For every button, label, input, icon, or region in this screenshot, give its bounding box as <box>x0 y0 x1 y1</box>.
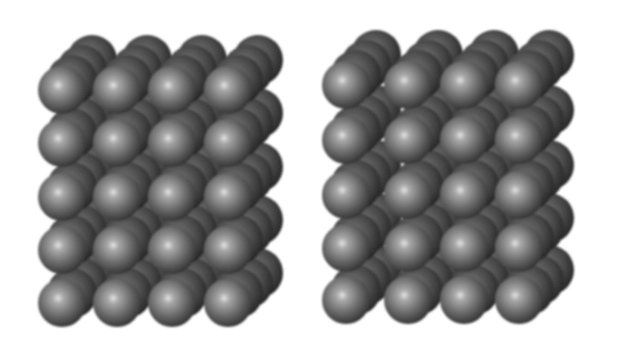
front-atom-sphere <box>204 66 252 114</box>
front-atom-sphere <box>204 279 252 327</box>
front-atom-sphere <box>148 66 196 114</box>
front-atom-sphere <box>93 66 141 114</box>
front-atom-sphere <box>440 116 488 164</box>
front-atom-sphere <box>495 61 543 109</box>
front-atom-sphere <box>384 61 432 109</box>
front-atom-sphere <box>440 171 488 219</box>
front-atom-sphere <box>148 226 196 274</box>
front-atom-sphere <box>384 276 432 324</box>
front-atom-sphere <box>204 119 252 167</box>
front-atom-sphere <box>495 116 543 164</box>
front-atom-sphere <box>384 224 432 272</box>
front-atom-sphere <box>38 173 86 221</box>
front-atom-sphere <box>495 171 543 219</box>
front-atom-sphere <box>440 224 488 272</box>
front-atom-sphere <box>38 279 86 327</box>
front-atom-sphere <box>322 116 370 164</box>
front-atom-sphere <box>384 171 432 219</box>
front-atom-sphere <box>93 119 141 167</box>
front-atom-sphere <box>440 61 488 109</box>
front-atom-sphere <box>204 173 252 221</box>
front-atom-sphere <box>148 173 196 221</box>
front-atom-sphere <box>322 276 370 324</box>
front-atom-sphere <box>384 116 432 164</box>
front-atom-sphere <box>148 119 196 167</box>
right-lattice <box>322 30 574 324</box>
front-atom-sphere <box>93 279 141 327</box>
front-atom-sphere <box>495 224 543 272</box>
lattice-figure <box>0 0 625 347</box>
front-atom-sphere <box>148 279 196 327</box>
front-atom-sphere <box>495 276 543 324</box>
front-atom-sphere <box>38 66 86 114</box>
front-atom-sphere <box>322 171 370 219</box>
front-atom-sphere <box>93 173 141 221</box>
front-atom-sphere <box>93 226 141 274</box>
left-lattice <box>38 35 283 327</box>
front-atom-sphere <box>322 224 370 272</box>
front-atom-sphere <box>204 226 252 274</box>
front-atom-sphere <box>440 276 488 324</box>
front-atom-sphere <box>322 61 370 109</box>
front-atom-sphere <box>38 226 86 274</box>
front-atom-sphere <box>38 119 86 167</box>
